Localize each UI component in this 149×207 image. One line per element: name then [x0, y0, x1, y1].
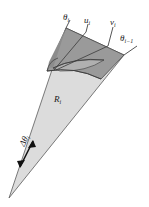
label-radius-R-i: Ri [54, 95, 61, 105]
figure-container: θi ui vi θi−1 Ri Δθi [0, 0, 149, 207]
label-theta-i: θi [63, 13, 69, 23]
label-theta-i-minus-1: θi−1 [120, 34, 133, 44]
leader-line-v-i [108, 27, 113, 46]
boundary-line-theta-i-minus-1 [124, 46, 137, 55]
label-v-i: vi [110, 18, 116, 28]
wedge-sector-svg [0, 0, 149, 207]
label-u-i: ui [84, 16, 90, 26]
